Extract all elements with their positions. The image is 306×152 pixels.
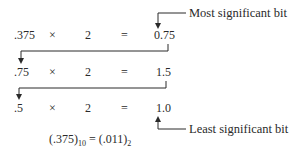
conclusion-equation: (.375)10 = (.011)2 [49, 133, 131, 145]
conclusion-left-base: 10 [78, 139, 86, 148]
row3-operand: .5 [14, 102, 23, 114]
msb-arrow [158, 13, 186, 25]
row1-equals: = [121, 29, 128, 41]
row3-result: 1.0 [156, 102, 171, 114]
row3-equals: = [121, 102, 128, 114]
row3-times: × [49, 102, 56, 114]
row3-multiplier: 2 [85, 102, 91, 114]
carry-arrowhead-1 [18, 58, 24, 64]
row1-result: 0.75 [154, 29, 175, 41]
carry-arrow-2 [19, 81, 166, 96]
lsb-label: Least significant bit [189, 123, 288, 135]
row2-equals: = [121, 66, 128, 78]
row2-multiplier: 2 [85, 66, 91, 78]
conclusion-right-value: (.011) [99, 132, 128, 146]
msb-label: Most significant bit [189, 7, 287, 19]
conclusion-equals: = [86, 132, 99, 146]
carry-arrow-1 [21, 44, 168, 60]
carry-arrowhead-2 [16, 94, 22, 100]
row2-operand: .75 [14, 66, 29, 78]
lsb-arrowhead [155, 116, 161, 122]
row2-times: × [49, 66, 56, 78]
row2-result: 1.5 [156, 66, 171, 78]
row1-operand: .375 [14, 29, 35, 41]
row1-times: × [49, 29, 56, 41]
conclusion-right-base: 2 [127, 139, 131, 148]
lsb-arrow [158, 120, 186, 129]
row1-multiplier: 2 [85, 29, 91, 41]
conclusion-left-value: (.375) [49, 132, 78, 146]
